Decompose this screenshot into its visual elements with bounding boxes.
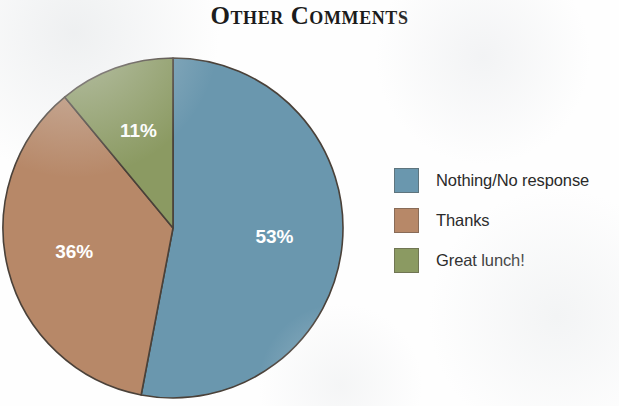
legend-item-label: Thanks <box>436 211 490 230</box>
legend-item[interactable]: Great lunch! <box>394 240 619 280</box>
legend-item[interactable]: Thanks <box>394 200 619 240</box>
legend-color-swatch <box>394 248 419 273</box>
pie-chart-svg: 53%36%11% <box>0 38 370 406</box>
legend-item-label: Nothing/No response <box>436 171 589 190</box>
pie-slice-label: 53% <box>255 226 293 247</box>
legend-color-swatch <box>394 208 419 233</box>
chart-legend: Nothing/No responseThanksGreat lunch! <box>394 160 619 280</box>
pie-chart: 53%36%11% <box>0 38 370 406</box>
chart-title: Other Comments <box>0 2 619 30</box>
legend-item-label: Great lunch! <box>436 251 525 270</box>
pie-slice-label: 36% <box>55 241 93 262</box>
pie-slice-label: 11% <box>120 120 157 141</box>
legend-color-swatch <box>394 168 419 193</box>
legend-item[interactable]: Nothing/No response <box>394 160 619 200</box>
